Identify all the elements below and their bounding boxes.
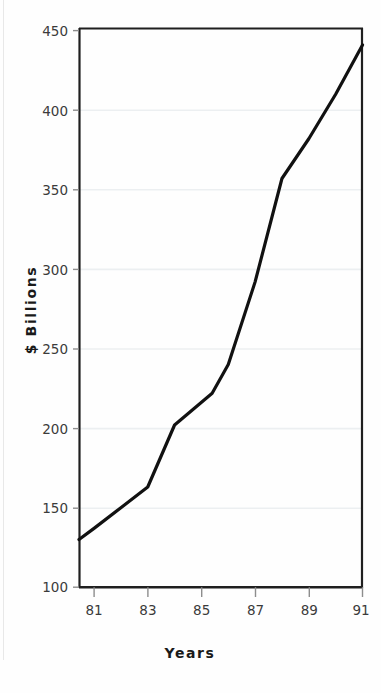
y-tick-label-150: 150	[42, 500, 68, 516]
y-tick-label-250: 250	[42, 341, 68, 357]
y-tick-labels: 100 150 200 250 300 350 400 450	[42, 23, 68, 595]
y-tick-marks	[73, 31, 79, 588]
y-tick-label-100: 100	[42, 579, 68, 595]
x-axis-title: Years	[163, 645, 215, 661]
y-tick-label-350: 350	[42, 182, 68, 198]
plot-frame	[79, 28, 363, 588]
y-tick-label-450: 450	[42, 23, 68, 39]
gridlines	[79, 110, 363, 508]
chart-figure: 100 150 200 250 300 350 400 450 81 83 85…	[0, 0, 381, 693]
x-tick-label-81: 81	[86, 602, 103, 618]
line-chart: 100 150 200 250 300 350 400 450 81 83 85…	[0, 0, 381, 693]
y-tick-label-200: 200	[42, 421, 68, 437]
x-tick-label-91: 91	[352, 602, 369, 618]
data-line-series-1	[79, 45, 363, 540]
y-tick-label-400: 400	[42, 103, 68, 119]
y-tick-label-300: 300	[42, 262, 68, 278]
x-tick-label-87: 87	[247, 602, 264, 618]
x-tick-label-85: 85	[193, 602, 210, 618]
x-tick-marks	[94, 587, 362, 597]
x-tick-label-83: 83	[139, 602, 156, 618]
x-tick-label-89: 89	[301, 602, 318, 618]
x-tick-labels: 81 83 85 87 89 91	[86, 602, 370, 618]
y-axis-title: $ Billions	[23, 266, 39, 354]
